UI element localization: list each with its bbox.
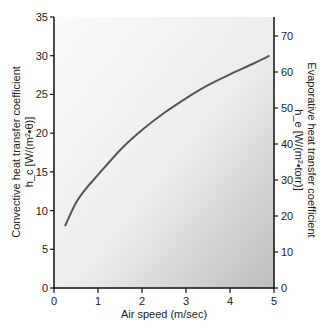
y-right-tick-label: 0 xyxy=(281,282,287,294)
plot-area xyxy=(54,17,274,288)
x-tick-label: 0 xyxy=(51,295,57,307)
x-axis-title: Air speed (m/sec) xyxy=(121,308,207,320)
y-right-tick-label: 60 xyxy=(281,66,293,78)
chart: 05101520253035012345010203040506070 Air … xyxy=(0,0,333,333)
y-right-tick-label: 70 xyxy=(281,30,293,42)
y-tick-label: 0 xyxy=(42,282,48,294)
y-axis-units: h_c [W/(m²•θ)] xyxy=(23,117,35,187)
y-tick-label: 5 xyxy=(42,243,48,255)
y-right-tick-label: 20 xyxy=(281,210,293,222)
x-tick-label: 1 xyxy=(95,295,101,307)
x-tick-label: 4 xyxy=(227,295,233,307)
y-right-axis-title: Evaporative heat transfer coefficient xyxy=(306,62,318,237)
y-right-tick-label: 30 xyxy=(281,174,293,186)
x-tick-label: 5 xyxy=(271,295,277,307)
y-right-tick-label: 50 xyxy=(281,102,293,114)
y-right-tick-label: 10 xyxy=(281,246,293,258)
y-right-axis-units: h_e [W/(m²•torr)] xyxy=(293,109,305,190)
y-tick-label: 35 xyxy=(36,11,48,23)
x-tick-label: 3 xyxy=(183,295,189,307)
y-tick-label: 10 xyxy=(36,205,48,217)
y-tick-label: 20 xyxy=(36,127,48,139)
y-tick-label: 25 xyxy=(36,88,48,100)
x-tick-label: 2 xyxy=(139,295,145,307)
y-axis-title: Convective heat transfer coefficient xyxy=(10,66,22,238)
y-tick-label: 15 xyxy=(36,166,48,178)
y-right-tick-label: 40 xyxy=(281,138,293,150)
y-tick-label: 30 xyxy=(36,50,48,62)
